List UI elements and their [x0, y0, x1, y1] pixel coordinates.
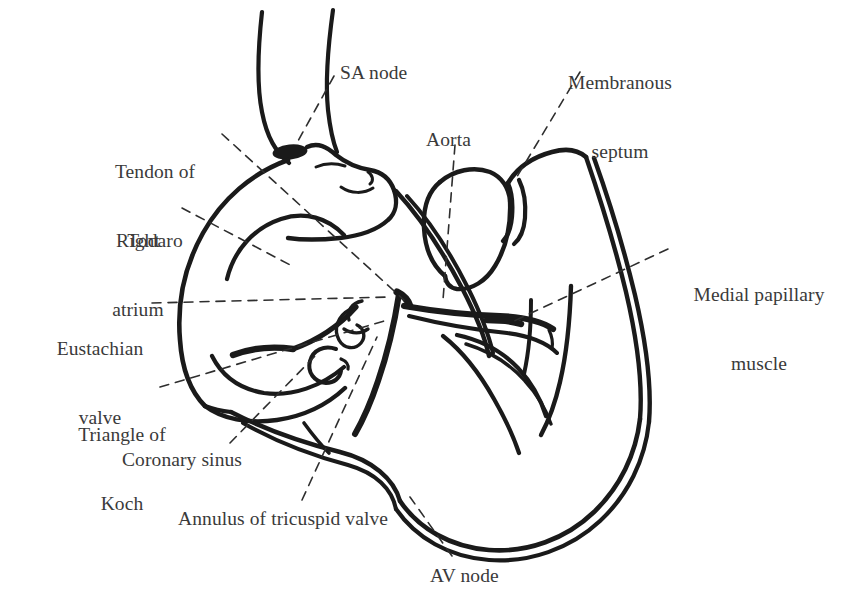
coronary-sinus-ostium: [309, 348, 341, 383]
label-medial-papillary-muscle: Medial papillary muscle: [676, 237, 842, 421]
label-annulus-of-tricuspid-valve: Annulus of tricuspid valve: [178, 507, 458, 530]
label-triangle-of-koch-line-2: Koch: [60, 492, 184, 515]
sa-node-marker: [272, 143, 308, 162]
sinotubular-band-right: [514, 180, 525, 244]
label-coronary-sinus: Coronary sinus: [122, 448, 302, 471]
label-aorta: Aorta: [426, 128, 506, 151]
label-tendon-of-todaro-line-1: Tendon of: [92, 160, 218, 183]
label-right-atrium-line-1: Right: [96, 229, 180, 252]
trabecula-2: [466, 344, 551, 424]
superior-vena-cava-left-wall: [258, 12, 289, 163]
tricuspid-annulus: [355, 294, 399, 434]
right-atrial-roof: [307, 145, 394, 190]
leader-medial-papillary-muscle: [512, 249, 668, 322]
label-membranous-septum: Membranous septum: [550, 25, 690, 209]
label-medial-papillary-muscle-line-1: Medial papillary: [676, 283, 842, 306]
cardiac-anatomy-diagram: SA node Membranous septum Tendon of Toda…: [0, 0, 861, 615]
eustachian-ridge: [233, 348, 293, 355]
pectinate-mark-curl: [368, 172, 372, 184]
crista-terminalis: [227, 216, 344, 279]
label-eustachian-valve-line-1: Eustachian: [36, 337, 164, 360]
atrial-inner-arc-lower: [212, 356, 344, 394]
pectinate-mark-lower: [341, 187, 373, 192]
label-membranous-septum-line-1: Membranous: [550, 71, 690, 94]
trabecula-3: [443, 336, 519, 453]
right-ventricular-free-wall-outer: [400, 419, 640, 550]
pectinate-mark-upper: [316, 164, 345, 167]
label-medial-papillary-muscle-line-2: muscle: [676, 352, 842, 375]
label-triangle-of-koch-line-1: Triangle of: [60, 423, 184, 446]
leader-aorta: [443, 145, 455, 300]
label-membranous-septum-line-2: septum: [550, 140, 690, 163]
label-sa-node: SA node: [340, 61, 460, 84]
leader-triangle-of-koch: [160, 321, 384, 387]
label-av-node: AV node: [430, 564, 550, 587]
